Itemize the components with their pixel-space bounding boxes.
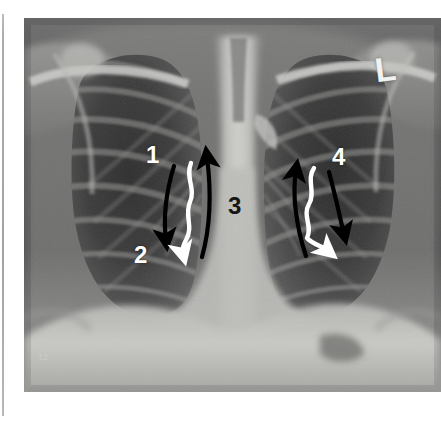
arrow-right-lung-black-down [165, 166, 174, 240]
figure-page: 1 2 3 4 L 12 [0, 0, 441, 421]
annotation-overlay: 1 2 3 4 L 12 [0, 0, 441, 421]
arrow-left-lung-black-down [329, 172, 344, 234]
arrow-left-lung-black-up [294, 170, 306, 256]
annotation-label-2: 2 [134, 243, 147, 267]
corner-stamp: 12 [38, 352, 48, 362]
arrow-right-lung-white-wavy-down [182, 163, 191, 254]
arrow-right-lung-black-up [202, 157, 210, 257]
side-marker-l-icon: L [373, 51, 398, 87]
annotation-label-3: 3 [228, 194, 241, 218]
annotation-label-4: 4 [332, 145, 345, 169]
annotation-label-1: 1 [146, 143, 159, 167]
arrow-left-lung-white-wavy-down [307, 168, 328, 251]
